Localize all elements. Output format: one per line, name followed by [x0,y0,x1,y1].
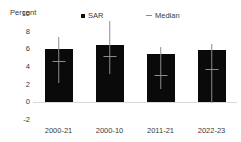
bar-group [186,14,237,120]
error-bar-whisker [160,47,162,89]
legend-item-sar: SAR [81,11,103,20]
y-axis-tick-8: 8 [10,28,30,36]
legend-label: SAR [88,11,103,20]
y-axis-tick-6: 6 [10,45,30,53]
bar-group [135,14,186,120]
x-axis-label-2000-21: 2000-21 [33,126,84,135]
y-axis-tick-4: 4 [10,63,30,71]
bar-group [33,14,84,120]
legend-label: Median [155,11,180,20]
y-axis-tick-neg2: -2 [10,116,30,124]
median-marker [205,69,218,71]
x-axis-label-2000-10: 2000-10 [84,126,135,135]
x-axis-label-2011-21: 2011-21 [135,126,186,135]
x-axis-label-2022-23: 2022-23 [186,126,237,135]
chart-legend: SARMedian [0,11,241,23]
error-bar-whisker [211,44,213,103]
median-marker [52,61,65,63]
legend-item-median: Median [146,11,180,20]
median-marker [154,75,167,77]
square-marker-icon [81,14,85,18]
y-axis-tick-2: 2 [10,81,30,89]
error-bar-whisker [109,21,111,74]
dash-marker-icon [146,15,152,17]
y-axis-tick-0: 0 [10,98,30,106]
plot-area [33,14,237,120]
bar-chart: Percent 1086420-2 SARMedian 2000-212000-… [0,0,241,142]
bar-group [84,14,135,120]
median-marker [103,56,116,58]
